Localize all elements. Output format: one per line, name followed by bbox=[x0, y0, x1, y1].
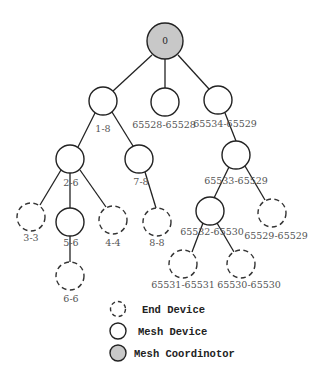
node-label: 1-8 bbox=[95, 123, 110, 134]
mesh-device-circle-icon bbox=[110, 323, 126, 339]
legend-label: Mesh Coordinotor bbox=[134, 348, 235, 360]
node-65534-65529: 65534-65529 bbox=[193, 86, 257, 129]
coordinator-circle-icon bbox=[110, 345, 126, 361]
mesh-device-circle-icon bbox=[56, 145, 84, 173]
node-label: 65532-65530 bbox=[180, 226, 244, 237]
edge-0-to-1-8 bbox=[113, 55, 152, 91]
node-65529-65529: 65529-65529 bbox=[244, 199, 308, 241]
node-2-6: 2-6 bbox=[56, 145, 84, 188]
end-device-dashed-circle-icon bbox=[227, 250, 255, 278]
edge-1-8-to-7-8 bbox=[112, 112, 133, 146]
node-label: 5-6 bbox=[63, 237, 78, 248]
mesh-device-circle-icon bbox=[196, 197, 224, 225]
end-device-dashed-circle-icon bbox=[111, 302, 126, 317]
node-label: 65534-65529 bbox=[193, 118, 257, 129]
node-4-4: 4-4 bbox=[99, 206, 127, 248]
end-device-dashed-circle-icon bbox=[17, 203, 45, 231]
legend: End Device Mesh Device Mesh Coordinotor bbox=[110, 302, 235, 362]
node-label: 65530-65530 bbox=[217, 279, 281, 290]
legend-item-mesh-device: Mesh Device bbox=[110, 323, 207, 339]
mesh-topology-diagram: 0 1-8 65528-65528 65534-65529 2-6 7-8 65… bbox=[0, 0, 319, 376]
edge-1-8-to-2-6 bbox=[78, 113, 95, 147]
node-label: 65528-65528 bbox=[132, 119, 196, 130]
mesh-device-circle-icon bbox=[56, 208, 84, 236]
node-label: 65531-65531 bbox=[151, 279, 215, 290]
node-65530-65530: 65530-65530 bbox=[217, 250, 281, 290]
node-5-6: 5-6 bbox=[56, 208, 84, 248]
edge-0-to-65534 bbox=[178, 55, 209, 89]
node-8-8: 8-8 bbox=[143, 208, 171, 248]
node-label: 65529-65529 bbox=[244, 230, 308, 241]
node-label: 7-8 bbox=[133, 176, 148, 187]
end-device-dashed-circle-icon bbox=[169, 250, 197, 278]
edge-2-6-to-4-4 bbox=[80, 170, 106, 207]
node-65528-65528: 65528-65528 bbox=[132, 88, 196, 130]
edge-2-6-to-3-3 bbox=[40, 170, 61, 205]
node-label: 2-6 bbox=[63, 177, 78, 188]
legend-label: Mesh Device bbox=[138, 326, 207, 338]
node-6-6: 6-6 bbox=[56, 262, 84, 304]
end-device-dashed-circle-icon bbox=[143, 208, 171, 236]
mesh-device-circle-icon bbox=[125, 145, 153, 173]
mesh-device-circle-icon bbox=[151, 88, 179, 116]
legend-item-mesh-coordinator: Mesh Coordinotor bbox=[110, 345, 235, 361]
node-65532-65530: 65532-65530 bbox=[180, 197, 244, 237]
node-label: 65533-65529 bbox=[204, 175, 268, 186]
end-device-dashed-circle-icon bbox=[258, 199, 286, 227]
legend-item-end-device: End Device bbox=[111, 302, 206, 317]
end-device-dashed-circle-icon bbox=[99, 206, 127, 234]
node-label: 6-6 bbox=[63, 293, 78, 304]
node-3-3: 3-3 bbox=[17, 203, 45, 243]
mesh-device-circle-icon bbox=[204, 86, 232, 114]
end-device-dashed-circle-icon bbox=[56, 262, 84, 290]
mesh-device-circle-icon bbox=[222, 141, 250, 169]
node-7-8: 7-8 bbox=[125, 145, 153, 187]
mesh-device-circle-icon bbox=[89, 87, 117, 115]
node-label: 3-3 bbox=[23, 232, 38, 243]
node-65531-65531: 65531-65531 bbox=[151, 250, 215, 290]
node-label: 4-4 bbox=[105, 237, 120, 248]
node-65533-65529: 65533-65529 bbox=[204, 141, 268, 186]
node-label: 0 bbox=[162, 36, 168, 46]
legend-label: End Device bbox=[142, 304, 205, 316]
node-1-8: 1-8 bbox=[89, 87, 117, 134]
node-coordinator-0: 0 bbox=[147, 23, 183, 59]
node-label: 8-8 bbox=[149, 237, 164, 248]
